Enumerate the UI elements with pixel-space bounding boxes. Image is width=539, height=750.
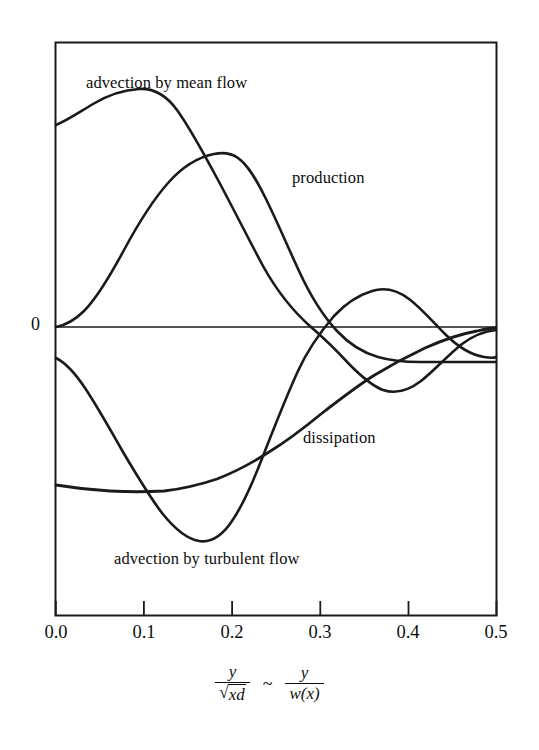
fraction1-numerator: y [223,663,243,682]
y-axis-zero-label: 0 [31,314,40,335]
x-tick-label-4: 0.4 [396,622,419,643]
fraction1-radicand: xd [228,684,246,704]
x-tick-label-3: 0.3 [308,622,331,643]
square-root-group: √ xd [219,684,245,704]
fraction-y-over-sqrt-xd: y √ xd [215,663,249,704]
x-axis-title: y √ xd ~ y w(x) [0,663,539,704]
x-axis-ticks [56,601,497,616]
fraction-y-over-w-x: y w(x) [285,664,323,703]
annotation-production: production [292,168,365,188]
plot-frame [56,43,497,616]
relation-tilde: ~ [263,674,273,695]
x-axis-tick-labels: 0.0 0.1 0.2 0.3 0.4 0.5 [0,622,539,652]
curve-production [56,153,496,362]
fraction1-denominator: √ xd [215,683,249,704]
x-tick-label-2: 0.2 [220,622,243,643]
annotation-advection-by-mean-flow: advection by mean flow [86,73,247,93]
figure-container: 0 0.0 0.1 0.2 0.3 0.4 0.5 advection by m… [0,0,539,750]
annotation-advection-by-turbulent-flow: advection by turbulent flow [114,549,300,569]
curve-dissipation [56,328,496,492]
x-tick-label-1: 0.1 [132,622,155,643]
x-tick-label-0: 0.0 [44,622,67,643]
fraction2-denominator: w(x) [285,684,323,703]
x-tick-label-5: 0.5 [484,622,507,643]
annotation-dissipation: dissipation [303,428,376,448]
fraction2-numerator: y [295,664,315,683]
